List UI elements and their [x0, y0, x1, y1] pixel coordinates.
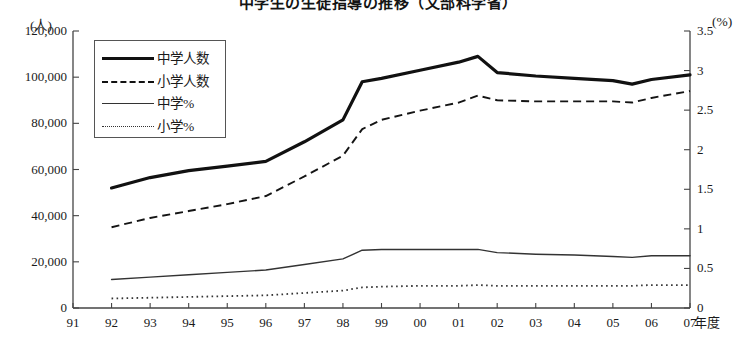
- legend-item-label: 小学人数: [157, 75, 209, 89]
- x-tick-label: 03: [516, 316, 556, 329]
- x-axis-caption: 年度: [694, 316, 720, 329]
- x-tick-label: 95: [207, 316, 247, 329]
- legend-swatch-icon: [102, 75, 154, 89]
- y-left-tick-label: 20,000: [5, 255, 67, 268]
- legend-swatch-icon: [102, 120, 154, 134]
- y-right-tick-label: 3.5: [697, 24, 737, 37]
- legend-item-1: 小学人数: [95, 70, 227, 94]
- y-left-tick-label: 40,000: [5, 209, 67, 222]
- legend-swatch-icon: [102, 52, 154, 66]
- x-tick-label: 94: [169, 316, 209, 329]
- y-left-tick-label: 120,000: [5, 24, 67, 37]
- x-tick-label: 06: [631, 316, 671, 329]
- chart-figure: 中学生の生徒指導の推移（文部科学省） (人) (%) 020,00040,000…: [0, 0, 756, 342]
- x-tick-label: 98: [323, 316, 363, 329]
- legend-item-0: 中学人数: [95, 47, 227, 71]
- x-tick-label: 99: [362, 316, 402, 329]
- y-right-tick-label: 3: [697, 64, 737, 77]
- x-tick-label: 04: [554, 316, 594, 329]
- legend-swatch-icon: [102, 97, 154, 111]
- legend-item-label: 小学%: [157, 120, 194, 134]
- x-tick-label: 01: [439, 316, 479, 329]
- y-left-tick-label: 60,000: [5, 163, 67, 176]
- x-tick-label: 02: [477, 316, 517, 329]
- series-line-3: [112, 285, 690, 298]
- legend-item-label: 中学人数: [157, 52, 209, 66]
- x-tick-label: 96: [246, 316, 286, 329]
- series-line-2: [112, 249, 690, 279]
- y-right-tick-label: 1: [697, 222, 737, 235]
- legend-item-2: 中学%: [95, 92, 227, 116]
- legend-item-label: 中学%: [157, 97, 194, 111]
- y-right-tick-label: 1.5: [697, 182, 737, 195]
- y-left-tick-label: 80,000: [5, 116, 67, 129]
- legend-item-3: 小学%: [95, 115, 227, 139]
- y-left-tick-label: 0: [5, 301, 67, 314]
- x-tick-label: 92: [92, 316, 132, 329]
- y-right-tick-label: 2: [697, 143, 737, 156]
- y-right-tick-label: 0: [697, 301, 737, 314]
- x-tick-label: 05: [593, 316, 633, 329]
- x-tick-label: 91: [53, 316, 93, 329]
- chart-legend: 中学人数小学人数中学%小学%: [94, 40, 226, 138]
- y-right-tick-label: 0.5: [697, 261, 737, 274]
- x-tick-label: 93: [130, 316, 170, 329]
- x-tick-label: 97: [284, 316, 324, 329]
- y-left-tick-label: 100,000: [5, 70, 67, 83]
- x-tick-label: 00: [400, 316, 440, 329]
- y-right-tick-label: 2.5: [697, 103, 737, 116]
